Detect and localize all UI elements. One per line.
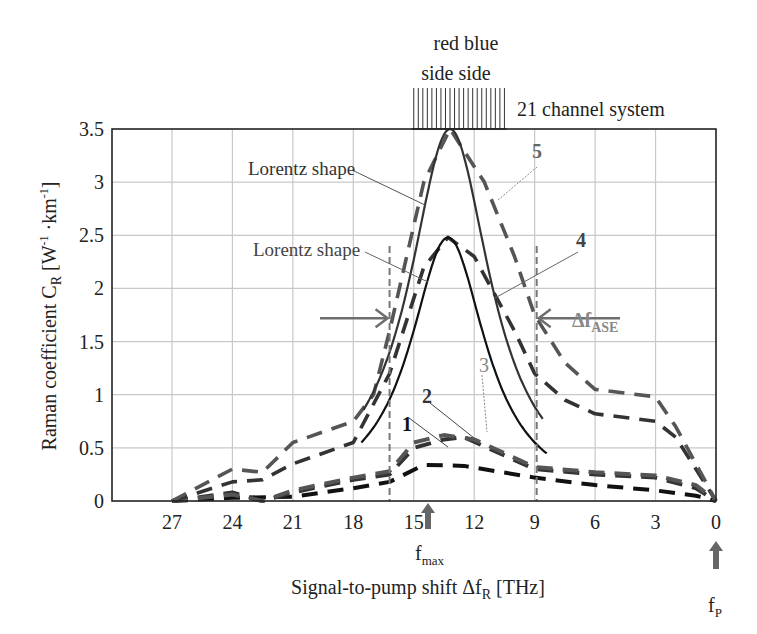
- y-tick-label: 2: [94, 277, 104, 299]
- x-tick-label: 24: [222, 511, 242, 533]
- fmax-arrow-shaft: [425, 511, 431, 529]
- x-tick-label: 21: [283, 511, 303, 533]
- x-tick-label: 18: [343, 511, 363, 533]
- x-tick-label: 12: [464, 511, 484, 533]
- y-tick-label: 3: [94, 171, 104, 193]
- fp-arrow-shaft: [713, 549, 719, 569]
- y-axis-label: Raman coefficient CR [W-1 ·km-1]: [37, 182, 64, 451]
- grid-lines: [112, 129, 716, 501]
- curve-label-1: 1: [402, 413, 412, 435]
- x-tick-label: 3: [651, 511, 661, 533]
- y-tick-labels: 00.511.522.533.5: [79, 118, 104, 512]
- y-tick-label: 1.5: [79, 331, 104, 353]
- y-tick-label: 1: [94, 384, 104, 406]
- lorentz-upper-label: Lorentz shape: [248, 158, 355, 179]
- raman-coefficient-chart: 00.511.522.533.5 2724211815129630 Raman …: [0, 0, 757, 634]
- curve-label-3: 3: [479, 354, 489, 376]
- annotation-leader-line: [498, 167, 537, 200]
- annotation-leader-line: [430, 403, 474, 438]
- curve-label-4: 4: [576, 229, 586, 251]
- x-tick-label: 6: [590, 511, 600, 533]
- side-side-label: side side: [421, 62, 491, 84]
- annotation-leader-line: [365, 252, 428, 282]
- y-tick-label: 3.5: [79, 118, 104, 140]
- x-tick-label: 27: [162, 511, 182, 533]
- x-tick-labels: 2724211815129630: [162, 511, 721, 533]
- y-tick-label: 0: [94, 490, 104, 512]
- curve-5: [172, 129, 716, 501]
- red-blue-label: red blue: [434, 32, 499, 54]
- y-tick-label: 0.5: [79, 437, 104, 459]
- curve-label-2: 2: [422, 385, 432, 407]
- data-curves: [172, 129, 716, 501]
- annotation-leader-line: [482, 375, 487, 432]
- fp-label: fP: [708, 594, 722, 620]
- fmax-label: fmax: [415, 542, 445, 568]
- y-tick-label: 2.5: [79, 224, 104, 246]
- lorentz-lower-label: Lorentz shape: [253, 239, 360, 260]
- fp-arrow-up-icon: [709, 541, 723, 551]
- curve-2: [172, 437, 716, 501]
- overlay-annotations: [320, 88, 723, 569]
- curve-3: [172, 435, 716, 501]
- curve-label-5: 5: [532, 140, 542, 162]
- channel-system-label: 21 channel system: [517, 98, 665, 121]
- curve-4: [172, 237, 716, 501]
- x-tick-label: 0: [711, 511, 721, 533]
- x-tick-label: 9: [530, 511, 540, 533]
- x-tick-label: 15: [404, 511, 424, 533]
- x-axis-label: Signal-to-pump shift ΔfR [THz]: [291, 576, 545, 602]
